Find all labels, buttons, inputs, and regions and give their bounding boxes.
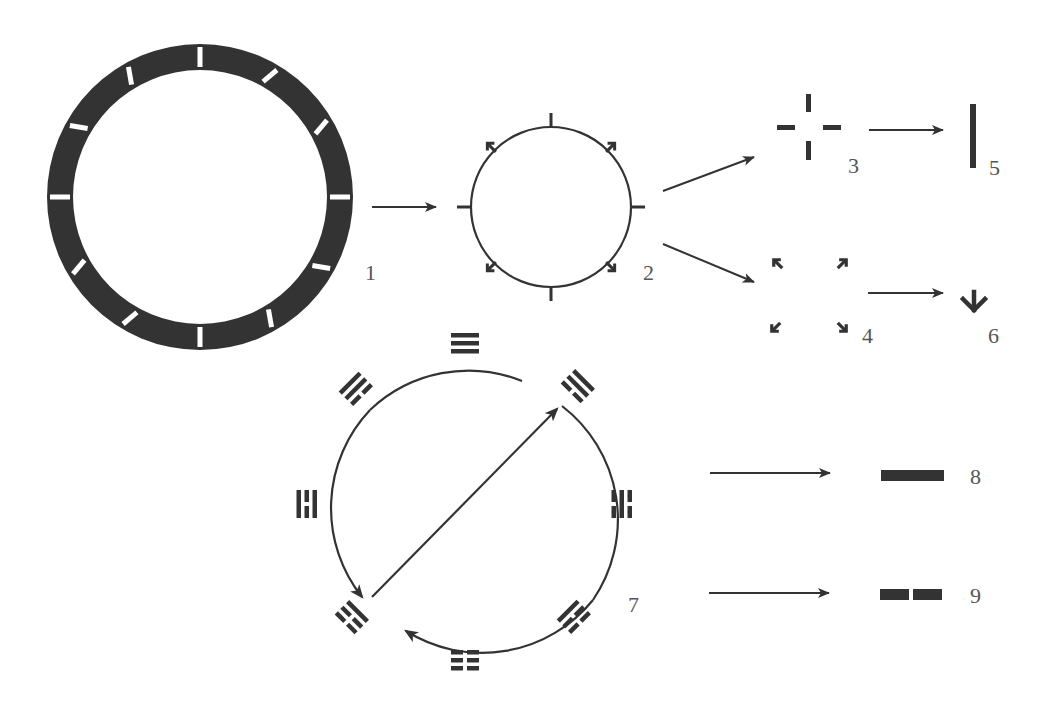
figure-label-6: 6 bbox=[988, 323, 999, 348]
dash-right bbox=[823, 125, 841, 130]
inward-arrow-icon bbox=[834, 319, 850, 335]
inward-arrow-icon bbox=[768, 319, 784, 335]
figure-2-circle bbox=[457, 113, 645, 301]
inward-arrow-icon bbox=[770, 256, 786, 272]
inward-arrow-icon bbox=[834, 256, 850, 272]
figure-label-8: 8 bbox=[970, 464, 981, 489]
trigram-right bbox=[612, 490, 633, 518]
figure-label-7: 7 bbox=[628, 592, 639, 617]
diagonal-inward-arrows bbox=[484, 140, 618, 274]
dash-top bbox=[806, 94, 811, 112]
trigram-lower-left bbox=[335, 600, 369, 634]
bezel-tick bbox=[198, 327, 203, 347]
figure-9-yin-line bbox=[880, 589, 942, 600]
trigram-top bbox=[451, 333, 479, 354]
trigram-left bbox=[297, 490, 318, 518]
figure-label-5: 5 bbox=[989, 155, 1000, 180]
figure-8-yang-line bbox=[881, 470, 944, 481]
figure-3-cross-dashes bbox=[777, 94, 841, 160]
arc-left-down bbox=[331, 410, 370, 597]
arc-right bbox=[562, 406, 618, 600]
bezel-tick bbox=[198, 47, 203, 67]
figure-label-4: 4 bbox=[862, 323, 873, 348]
arrow-2-to-4 bbox=[663, 244, 754, 282]
figure-label-1: 1 bbox=[365, 260, 376, 285]
bezel-tick bbox=[50, 195, 70, 200]
figure-6-down-arrow-icon bbox=[963, 292, 985, 310]
diagonal-arrow bbox=[372, 409, 557, 597]
figure-label-2: 2 bbox=[643, 260, 654, 285]
bezel-ring-band bbox=[47, 44, 353, 350]
figure-label-3: 3 bbox=[848, 153, 859, 178]
figure-7-trigram-circle bbox=[297, 333, 633, 671]
diagram-canvas: 1 2 3 5 4 6 bbox=[0, 0, 1045, 715]
arrow-2-to-3 bbox=[663, 157, 754, 191]
dash-left bbox=[777, 125, 795, 130]
cardinal-ticks bbox=[457, 113, 645, 301]
trigram-upper-right bbox=[561, 369, 595, 403]
trigram-upper-left bbox=[339, 372, 373, 406]
figure-label-9: 9 bbox=[970, 583, 981, 608]
figure-1-bezel-ring bbox=[47, 44, 353, 350]
bezel-tick bbox=[330, 195, 350, 200]
dash-bottom bbox=[806, 141, 811, 160]
flow-arrows bbox=[372, 130, 943, 593]
trigram-bottom bbox=[451, 650, 479, 671]
figure-4-inward-arrows bbox=[768, 256, 850, 335]
figure-5-vertical-bar bbox=[970, 104, 976, 168]
arc-upper bbox=[370, 371, 522, 410]
